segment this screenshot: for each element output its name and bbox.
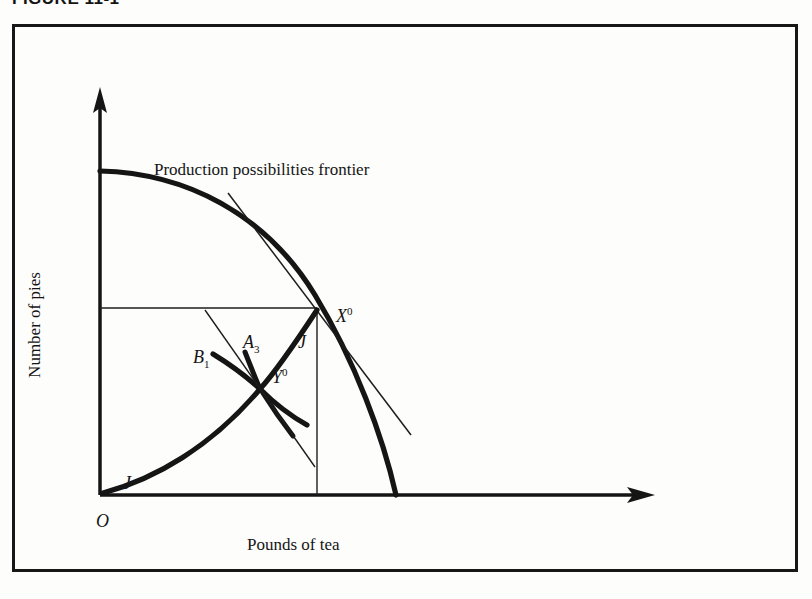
- point-label-Y0: Y0: [272, 366, 288, 388]
- curve-label-B1-base: B: [193, 347, 204, 367]
- point-label-Y0-superscript: 0: [282, 366, 288, 378]
- x-axis-label: Pounds of tea: [247, 535, 340, 555]
- chart-canvas: [15, 27, 795, 569]
- curve-label-J-lower: J: [123, 473, 131, 494]
- point-label-X0: X0: [336, 305, 353, 327]
- figure-page: FIGURE 11-1: [0, 0, 812, 599]
- figure-frame: Number of pies Pounds of tea Production …: [12, 24, 798, 572]
- curve-label-B1: B1: [193, 347, 210, 370]
- y-axis-label: Number of pies: [25, 245, 45, 405]
- figure-caption: FIGURE 11-1: [12, 0, 120, 9]
- point-label-X0-superscript: 0: [347, 305, 353, 317]
- curve-label-A3-subscript: 3: [254, 343, 260, 355]
- indifference-curve-upper-right-branch: [260, 310, 317, 389]
- origin-label: O: [96, 511, 109, 532]
- tangent-line-at-X0: [228, 193, 411, 435]
- point-label-X0-base: X: [336, 306, 347, 326]
- ppf-annotation-label: Production possibilities frontier: [154, 160, 369, 180]
- curve-label-A3-base: A: [243, 332, 254, 352]
- point-label-Y0-base: Y: [272, 367, 282, 387]
- curve-label-B1-subscript: 1: [204, 358, 210, 370]
- curve-label-A3: A3: [243, 332, 260, 355]
- curve-label-J-upper: J: [298, 332, 306, 353]
